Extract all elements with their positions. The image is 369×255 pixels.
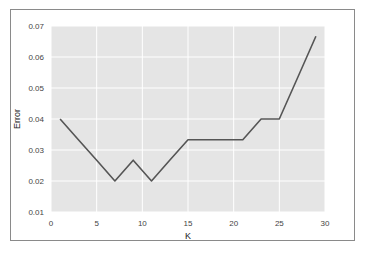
y-tick-label: 0.07 — [28, 22, 44, 31]
x-tick-label: 10 — [138, 219, 147, 228]
line-chart: 0.010.020.030.040.050.060.07 05101520253… — [0, 0, 369, 255]
y-tick-label: 0.02 — [28, 177, 44, 186]
y-tick-label: 0.01 — [28, 208, 44, 217]
y-tick-label: 0.03 — [28, 146, 44, 155]
x-axis-label: K — [185, 231, 191, 241]
x-tick-label: 0 — [49, 219, 54, 228]
x-tick-label: 15 — [184, 219, 193, 228]
x-tick-label: 5 — [94, 219, 99, 228]
y-tick-label: 0.04 — [28, 115, 44, 124]
y-tick-label: 0.05 — [28, 84, 44, 93]
x-tick-label: 30 — [321, 219, 330, 228]
x-tick-label: 20 — [229, 219, 238, 228]
x-axis-ticks: 051015202530 — [49, 219, 330, 228]
y-axis-label: Error — [12, 109, 22, 129]
x-tick-label: 25 — [275, 219, 284, 228]
y-tick-label: 0.06 — [28, 53, 44, 62]
y-axis-ticks: 0.010.020.030.040.050.060.07 — [28, 22, 44, 217]
